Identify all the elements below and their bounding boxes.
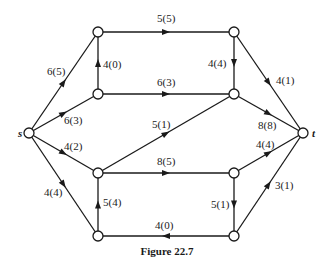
- edge-label: 6(3): [64, 114, 83, 127]
- edge-label: 5(4): [103, 196, 122, 209]
- arrowhead-icon: [264, 151, 272, 158]
- edge-label: 4(4): [44, 186, 63, 199]
- node-e: [93, 168, 103, 178]
- edge-label: 4(1): [276, 74, 295, 87]
- edge-label: 6(5): [47, 65, 66, 78]
- node-label-s: s: [17, 127, 22, 139]
- edge-label: 6(3): [157, 76, 176, 89]
- edge-label: 8(8): [258, 119, 277, 132]
- node-f: [229, 168, 239, 178]
- node-b: [229, 27, 239, 37]
- edge-label: 4(0): [155, 219, 174, 232]
- node-c: [93, 89, 103, 99]
- labels-layer: 6(5)6(3)4(2)4(4)4(0)5(5)4(4)6(3)4(1)8(8)…: [17, 12, 316, 232]
- arrowhead-icon: [162, 170, 170, 176]
- network-svg: 6(5)6(3)4(2)4(4)4(0)5(5)4(4)6(3)4(1)8(8)…: [0, 0, 329, 265]
- arrowhead-icon: [162, 233, 170, 239]
- node-t: [298, 128, 308, 138]
- edge-label: 5(1): [211, 198, 230, 211]
- edge-label: 5(5): [157, 12, 176, 25]
- edge-label: 8(5): [157, 155, 176, 168]
- edge-label: 4(4): [208, 57, 227, 70]
- flow-network-diagram: 6(5)6(3)4(2)4(4)4(0)5(5)4(4)6(3)4(1)8(8)…: [0, 0, 329, 265]
- edge-label: 4(0): [103, 58, 122, 71]
- arrowhead-icon: [59, 79, 66, 87]
- edge-label: 3(1): [275, 179, 294, 192]
- arrowhead-icon: [264, 78, 271, 86]
- node-s: [24, 128, 34, 138]
- arrowhead-icon: [264, 181, 271, 189]
- edge-label: 4(4): [256, 138, 275, 151]
- arrowhead-icon: [162, 91, 170, 97]
- node-d: [229, 89, 239, 99]
- figure-caption: Figure 22.7: [141, 245, 194, 257]
- arrowhead-icon: [161, 131, 169, 138]
- arrowhead-icon: [231, 59, 237, 67]
- arrowhead-icon: [231, 201, 237, 209]
- arrowhead-icon: [95, 59, 101, 67]
- arrowhead-icon: [95, 201, 101, 209]
- node-label-t: t: [312, 127, 316, 139]
- node-g: [93, 231, 103, 241]
- edge-label: 4(2): [64, 140, 83, 153]
- arrows-layer: [59, 29, 272, 239]
- edge-label: 5(1): [152, 118, 171, 131]
- arrowhead-icon: [162, 29, 170, 35]
- node-a: [93, 27, 103, 37]
- node-h: [229, 231, 239, 241]
- arrowhead-icon: [264, 109, 272, 116]
